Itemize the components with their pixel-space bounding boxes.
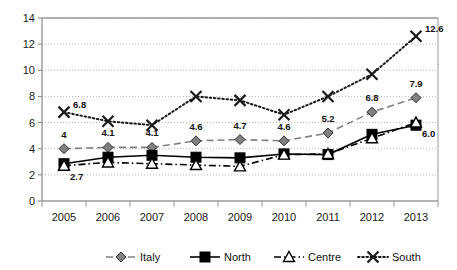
data-point-label: 6.8 [365,92,378,103]
x-axis-tick-label: 2005 [52,211,76,223]
x-axis-tick-label: 2009 [228,211,252,223]
x-axis-tick-label: 2012 [360,211,384,223]
y-axis-tick-label: 6 [29,117,35,129]
legend-label: Centre [308,251,341,263]
x-axis-tick-label: 2007 [140,211,164,223]
data-point-marker-diamond [279,136,289,146]
line-chart: 02468101214 2005200620072008200920102011… [0,0,457,270]
data-point-label: 6.8 [73,99,86,110]
x-axis-tick-label: 2010 [272,211,296,223]
data-point-label: 4.6 [189,121,202,132]
data-point-marker-x [411,31,422,42]
data-point-marker-x [279,109,290,120]
data-point-labels: 44.14.14.64.74.65.26.87.92.76.06.812.6 [61,23,443,181]
data-point-marker-diamond [323,128,333,138]
data-point-label: 5.2 [321,113,334,124]
data-point-marker-diamond [411,93,421,103]
legend-label: South [392,251,421,263]
y-axis-tick-labels: 02468101214 [23,12,35,207]
legend-label: North [224,251,251,263]
legend-item-italy[interactable]: Italy [106,251,161,263]
data-point-label: 4.7 [233,120,246,131]
data-point-marker-diamond [367,107,377,117]
chart-canvas: 02468101214 2005200620072008200920102011… [0,0,457,270]
y-axis-tick-label: 2 [29,169,35,181]
data-point-marker-diamond [191,136,201,146]
y-axis-tick-label: 4 [29,143,35,155]
data-point-marker-x [103,116,114,127]
x-axis-tick-label: 2008 [184,211,208,223]
data-point-label: 6.0 [422,128,435,139]
data-point-marker-diamond [116,252,126,262]
data-point-marker-diamond [103,142,113,152]
y-axis-tick-label: 0 [29,195,35,207]
x-axis-tick-labels: 200520062007200820092010201120122013 [52,211,428,223]
data-point-label: 4 [61,129,67,140]
data-point-label: 2.7 [70,171,83,182]
x-axis-tick-label: 2006 [96,211,120,223]
x-axis-tick-label: 2013 [404,211,428,223]
y-axis-tick-label: 10 [23,64,35,76]
x-axis-tick-label: 2011 [316,211,340,223]
series-south [59,31,422,131]
data-point-marker-square [200,252,210,262]
legend-item-centre[interactable]: Centre [274,251,341,263]
y-axis-tick-label: 14 [23,12,35,24]
y-axis-tick-label: 12 [23,38,35,50]
data-point-label: 4.1 [145,127,159,138]
data-point-marker-diamond [59,144,69,154]
legend-label: Italy [140,251,161,263]
data-point-label: 4.6 [277,121,290,132]
chart-legend: ItalyNorthCentreSouth [106,251,421,263]
y-axis-tick-label: 8 [29,90,35,102]
chart-axes [38,18,438,207]
data-point-label: 7.9 [409,78,422,89]
legend-item-south[interactable]: South [358,251,421,263]
legend-item-north[interactable]: North [190,251,251,263]
data-point-label: 4.1 [101,127,115,138]
series-line [64,36,416,125]
data-point-marker-diamond [235,135,245,145]
data-point-label: 12.6 [425,23,444,34]
